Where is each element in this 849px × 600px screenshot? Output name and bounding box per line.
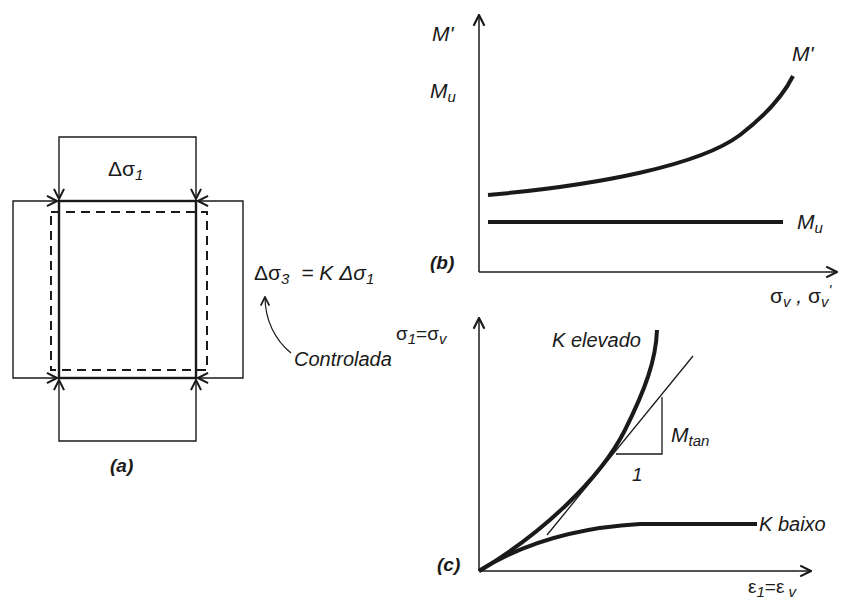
delta-sigma1-label: Δσ1 (108, 158, 143, 182)
c-curve-k-elevado-label: K elevado (552, 330, 641, 350)
b-y-tick-mu: Mu (430, 80, 456, 104)
b-curve-mprime (488, 76, 793, 195)
panel-b-chart (479, 15, 837, 272)
specimen-square (59, 201, 196, 378)
controlled-label: Controlada (294, 349, 392, 369)
deformed-outline-dashed (51, 212, 207, 370)
b-curve-mprime-label: M' (792, 43, 814, 64)
c-x-axis-label: ε1=εv (748, 577, 796, 599)
c-curve-k-baixo-label: K baixo (759, 514, 826, 534)
c-y-axis-label: σ1=σv (396, 324, 446, 346)
c-curve-k-baixo (479, 524, 757, 571)
controlled-pointer-arrow (265, 297, 291, 353)
c-slope-triangle (616, 397, 662, 454)
c-tangent-mtan-label: Mtan (671, 424, 709, 448)
right-load-bracket (198, 201, 243, 378)
b-x-axis-label: σv , σv' (770, 282, 831, 309)
diagram-canvas (0, 0, 849, 600)
c-run-label: 1 (632, 465, 643, 484)
panel-c-tag: (c) (437, 555, 460, 574)
bottom-load-bracket (59, 380, 196, 441)
delta-sigma3-equation: Δσ3 = K Δσ1 (254, 262, 374, 286)
b-y-axis-label: M' (432, 23, 454, 44)
panel-b-tag: (b) (430, 253, 454, 272)
b-curve-mu-label: Mu (797, 211, 823, 235)
panel-a-specimen (13, 137, 291, 441)
panel-a-tag: (a) (110, 456, 133, 475)
